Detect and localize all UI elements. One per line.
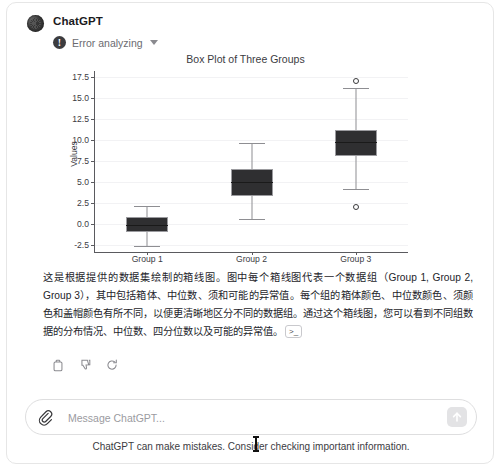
error-icon: ! [53,36,66,49]
message-action-bar [51,358,119,372]
answer-paragraph: 这是根据提供的数据集绘制的箱线图。图中每个箱线图代表一个数据组（Group 1,… [43,272,473,337]
median-line [126,225,168,226]
median-line [335,142,377,143]
x-tick-label: Group 3 [340,254,371,264]
whisker-cap [239,219,265,220]
y-tick-label: 2.5 [77,198,89,208]
whisker-cap [343,189,369,190]
mouse-text-cursor [255,436,257,452]
plot-area: Values 17.515.012.510.07.55.02.50.0-2.5 … [94,71,408,253]
box-plot-figure: Box Plot of Three Groups Values 17.515.0… [47,53,422,268]
thumbs-down-icon[interactable] [78,358,92,372]
whisker-cap [134,206,160,207]
outlier-point [353,204,359,210]
chart-title: Box Plot of Three Groups [47,53,422,65]
y-tick-label: 0.0 [77,219,89,229]
assistant-avatar [27,15,44,32]
assistant-answer-text: 这是根据提供的数据集绘制的箱线图。图中每个箱线图代表一个数据组（Group 1,… [43,269,473,341]
y-tick-label: -2.5 [74,240,89,250]
gridline [95,98,408,99]
x-tick-label: Group 2 [236,254,267,264]
y-tick-label: 12.5 [72,114,89,124]
y-tick-mark [91,245,95,246]
message-composer[interactable] [25,399,477,435]
paperclip-icon[interactable] [37,409,54,426]
x-tick-label: Group 1 [132,254,163,264]
gridline [95,119,408,120]
copy-icon[interactable] [51,358,65,372]
regenerate-icon[interactable] [105,358,119,372]
y-tick-mark [91,203,95,204]
median-line [231,182,273,183]
y-tick-label: 7.5 [77,156,89,166]
footer-disclaimer: ChatGPT can make mistakes. Consider chec… [7,441,494,452]
chat-window: ChatGPT ! Error analyzing Box Plot of Th… [6,2,494,464]
chevron-down-icon[interactable] [150,40,158,45]
whisker-cap [134,246,160,247]
box-rect [335,130,377,156]
message-input[interactable] [66,400,450,436]
y-tick-mark [91,224,95,225]
error-status-label: Error analyzing [72,37,143,49]
y-tick-mark [91,98,95,99]
whisker-cap [239,143,265,144]
send-button[interactable] [447,407,467,427]
outlier-point [353,78,359,84]
y-tick-label: 10.0 [72,135,89,145]
y-tick-mark [91,77,95,78]
gridline [95,77,408,78]
citation-chip[interactable]: >_ [285,325,302,338]
whisker-cap [343,88,369,89]
error-analyzing-toggle[interactable]: ! Error analyzing [53,36,158,49]
y-tick-mark [91,182,95,183]
y-tick-mark [91,140,95,141]
assistant-name: ChatGPT [53,15,103,27]
y-tick-label: 15.0 [72,93,89,103]
y-tick-label: 5.0 [77,177,89,187]
y-tick-mark [91,161,95,162]
y-tick-label: 17.5 [72,72,89,82]
y-tick-mark [91,119,95,120]
